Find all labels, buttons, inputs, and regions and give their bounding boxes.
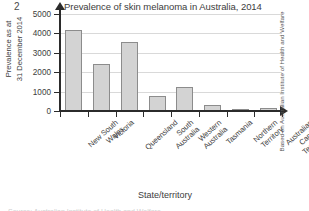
plot-area	[60, 14, 282, 111]
bar	[121, 42, 138, 111]
bar-slot	[116, 14, 144, 111]
x-axis-category-label: Australian Capital Territory	[281, 118, 309, 163]
bar	[65, 30, 82, 111]
y-axis-tick	[54, 14, 60, 15]
y-axis-arrow-icon	[55, 2, 65, 10]
x-axis-tick	[227, 112, 228, 117]
y-axis-tick-label: 0	[46, 107, 51, 116]
y-axis-tick	[54, 92, 60, 93]
bar-slot	[60, 14, 88, 111]
x-axis-tick	[60, 112, 61, 117]
x-axis-category-labels: New South WalesVictoriaQueenslandSouth A…	[0, 118, 309, 188]
bar-slot	[171, 14, 199, 111]
bar	[149, 96, 166, 111]
x-axis-tick	[88, 112, 89, 117]
x-axis-category-label: Tasmania	[224, 118, 254, 146]
x-axis-tick	[171, 112, 172, 117]
figure-container: 2 Prevalence of skin melanoma in Austral…	[0, 0, 309, 211]
y-axis-tick-label: 5000	[33, 10, 51, 19]
y-axis-title: Prevalence as at 31 December 2014	[4, 0, 30, 102]
bar	[176, 87, 193, 111]
y-axis-tick-label: 3000	[33, 48, 51, 57]
y-axis-tick	[54, 33, 60, 34]
bar-series	[60, 14, 282, 111]
y-axis-tick	[54, 72, 60, 73]
chart-title: Prevalence of skin melanoma in Australia…	[64, 1, 262, 12]
bar-slot	[199, 14, 227, 111]
x-axis-category-label: Western Australia	[196, 118, 230, 151]
x-axis-tick	[199, 112, 200, 117]
x-axis-tick	[116, 112, 117, 117]
bar-slot	[88, 14, 116, 111]
x-axis-tick	[254, 112, 255, 117]
y-axis-tick-label: 2000	[33, 68, 51, 77]
y-axis-tick-label: 1000	[33, 87, 51, 96]
x-axis-title: State/territory	[110, 190, 220, 200]
y-axis-tick-label: 4000	[33, 29, 51, 38]
x-axis-line	[59, 110, 281, 112]
bar	[93, 64, 110, 111]
y-axis-tick	[54, 53, 60, 54]
source-note: Based on Australian Institute of Health …	[278, 12, 285, 152]
clipped-footer-text: Source: Australian Institute of Health a…	[8, 208, 161, 211]
bar-slot	[143, 14, 171, 111]
x-axis-tick	[143, 112, 144, 117]
y-axis-line	[59, 8, 61, 112]
bar-slot	[227, 14, 255, 111]
